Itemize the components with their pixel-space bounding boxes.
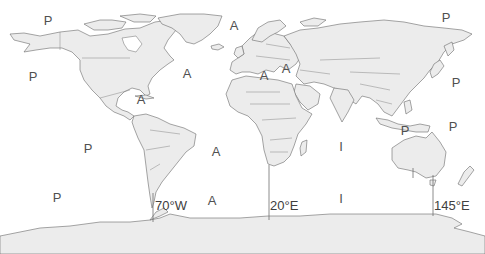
- ocean-label-atlantic: A: [260, 69, 269, 82]
- south-america: [132, 114, 196, 208]
- ocean-label-pacific: P: [401, 124, 410, 137]
- ocean-label-indian: I: [339, 192, 343, 205]
- philippines: [404, 100, 412, 114]
- ocean-label-pacific: P: [29, 70, 38, 83]
- arctic-islands-2: [120, 14, 156, 22]
- meridian-label-145e: 145°E: [434, 199, 470, 212]
- ocean-label-pacific: P: [53, 191, 62, 204]
- ocean-label-atlantic: A: [212, 145, 221, 158]
- novaya-zemlya: [300, 18, 326, 26]
- meridian-label-70w: 70°W: [155, 199, 187, 212]
- ocean-label-pacific: P: [449, 120, 458, 133]
- madagascar: [300, 140, 307, 156]
- arctic-islands: [84, 20, 126, 30]
- meridian-label-20e: 20°E: [270, 199, 298, 212]
- ocean-label-atlantic: A: [282, 62, 291, 75]
- australia: [392, 132, 446, 178]
- ocean-label-pacific: P: [84, 142, 93, 155]
- iceland: [211, 44, 224, 50]
- ocean-label-atlantic: A: [183, 67, 192, 80]
- ocean-label-pacific: P: [44, 14, 53, 27]
- antarctica: [0, 214, 485, 254]
- world-map: [0, 0, 485, 254]
- ocean-label-pacific: P: [442, 11, 451, 24]
- ocean-label-pacific: P: [452, 76, 461, 89]
- ocean-label-indian: I: [339, 140, 343, 153]
- ocean-label-atlantic: A: [137, 93, 146, 106]
- ocean-label-atlantic: A: [208, 194, 217, 207]
- new-zealand: [458, 166, 474, 186]
- ocean-label-atlantic: A: [230, 19, 239, 32]
